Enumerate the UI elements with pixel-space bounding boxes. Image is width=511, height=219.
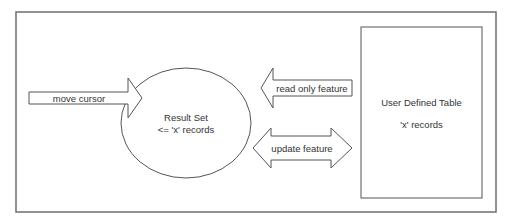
update-feature-arrow[interactable]: update feature [253,128,352,168]
user-defined-table-rect [361,27,482,198]
read-only-feature-arrow[interactable]: read only feature [261,68,352,108]
user-defined-table-title: User Defined Table [381,97,462,108]
update-feature-label: update feature [271,143,332,154]
user-defined-table-node[interactable]: User Defined Table 'x' records [361,27,482,198]
result-set-ellipse [121,68,251,178]
read-only-feature-label: read only feature [276,83,347,94]
result-set-subtitle: <= 'x' records [158,124,215,135]
result-set-title: Result Set [164,112,208,123]
result-set-node[interactable]: Result Set <= 'x' records [121,68,251,178]
move-cursor-label: move cursor [53,93,105,104]
diagram-canvas: Result Set <= 'x' records move cursor re… [0,0,511,219]
user-defined-table-subtitle: 'x' records [400,119,443,130]
